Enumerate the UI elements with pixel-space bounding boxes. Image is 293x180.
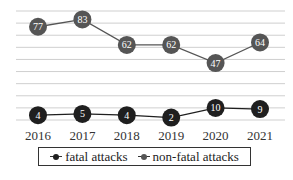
legend-item-fatal: fatal attacks [50, 149, 127, 165]
data-label: 4 [124, 110, 129, 121]
legend-label: non-fatal attacks [153, 149, 239, 165]
data-label: 4 [36, 110, 41, 121]
x-tick-label: 2020 [203, 128, 229, 143]
data-label: 64 [255, 37, 265, 48]
series-line [38, 108, 260, 118]
x-tick-label: 2017 [69, 128, 96, 143]
legend-marker-icon [50, 153, 62, 161]
series-line [38, 19, 260, 63]
x-tick-label: 2021 [247, 128, 273, 143]
x-tick-label: 2016 [25, 128, 52, 143]
x-tick-label: 2019 [158, 128, 184, 143]
data-label: 2 [169, 112, 174, 123]
data-label: 62 [122, 39, 132, 50]
legend-marker-icon [138, 153, 150, 161]
data-label: 5 [80, 108, 85, 119]
chart: 2016201720182019202020214542109778362624… [0, 0, 293, 145]
data-label: 83 [77, 14, 87, 25]
x-tick-label: 2018 [114, 128, 140, 143]
data-label: 77 [33, 21, 43, 32]
legend-label: fatal attacks [65, 149, 127, 165]
data-label: 9 [258, 104, 263, 115]
line-chart: 2016201720182019202020214542109778362624… [0, 0, 293, 145]
chart-legend: fatal attacks non-fatal attacks [38, 147, 251, 166]
data-label: 47 [211, 58, 221, 69]
data-label: 62 [166, 39, 176, 50]
legend-item-non-fatal: non-fatal attacks [138, 149, 239, 165]
data-label: 10 [211, 102, 221, 113]
